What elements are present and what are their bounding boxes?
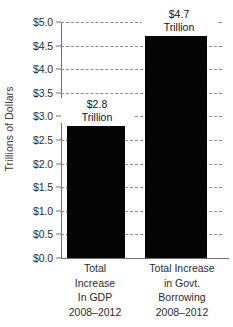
y-axis-title: Trillions of Dollars bbox=[0, 0, 18, 258]
y-axis-title-text: Trillions of Dollars bbox=[3, 86, 15, 171]
value-label-unit-gdp: Trillion bbox=[61, 111, 133, 124]
y-tick-label-5: $2.5 bbox=[33, 134, 53, 146]
category-label-gdp-line-3: 2008–2012 bbox=[58, 305, 132, 320]
y-tick-label-3: $1.5 bbox=[33, 181, 53, 193]
value-label-amount-borrowing: $4.7 bbox=[141, 8, 217, 21]
category-label-gdp-line-0: Total bbox=[58, 261, 132, 276]
y-tick-label-9: $4.5 bbox=[33, 40, 53, 52]
y-tick-label-6: $3.0 bbox=[33, 110, 53, 122]
x-axis-line bbox=[61, 258, 229, 259]
category-label-borrowing-line-3: 2008–2012 bbox=[136, 305, 228, 320]
category-label-borrowing-line-0: Total Increase bbox=[136, 261, 228, 276]
category-label-borrowing-line-2: Borrowing bbox=[136, 290, 228, 305]
category-label-borrowing-line-1: in Govt. bbox=[136, 276, 228, 291]
y-tick-label-8: $4.0 bbox=[33, 63, 53, 75]
y-tick-label-2: $1.0 bbox=[33, 205, 53, 217]
category-label-total-increase-in-gdp: Total Increase In GDP 2008–2012 bbox=[58, 261, 132, 319]
value-label-total-increase-in-gdp: $2.8 Trillion bbox=[61, 98, 133, 123]
value-label-total-increase-in-govt-borrowing: $4.7 Trillion bbox=[141, 8, 217, 33]
y-tick-label-0: $0.0 bbox=[33, 252, 53, 264]
y-tick-label-10: $5.0 bbox=[33, 16, 53, 28]
category-label-gdp-line-1: Increase bbox=[58, 276, 132, 291]
y-tick-label-1: $0.5 bbox=[33, 228, 53, 240]
value-label-amount-gdp: $2.8 bbox=[61, 98, 133, 111]
y-axis-tick-labels: $0.0 $0.5 $1.0 $1.5 $2.0 $2.5 $3.0 $3.5 … bbox=[18, 0, 56, 327]
category-label-total-increase-in-govt-borrowing: Total Increase in Govt. Borrowing 2008–2… bbox=[136, 261, 228, 319]
bar-total-increase-in-govt-borrowing[interactable] bbox=[145, 36, 207, 258]
bar-total-increase-in-gdp[interactable] bbox=[67, 126, 125, 258]
y-tick-label-4: $2.0 bbox=[33, 158, 53, 170]
plot-area bbox=[61, 22, 222, 258]
value-label-unit-borrowing: Trillion bbox=[141, 21, 217, 34]
bar-chart: Trillions of Dollars $0.0 $0.5 $1.0 $1.5… bbox=[0, 0, 233, 327]
y-tick-label-7: $3.5 bbox=[33, 87, 53, 99]
category-label-gdp-line-2: In GDP bbox=[58, 290, 132, 305]
